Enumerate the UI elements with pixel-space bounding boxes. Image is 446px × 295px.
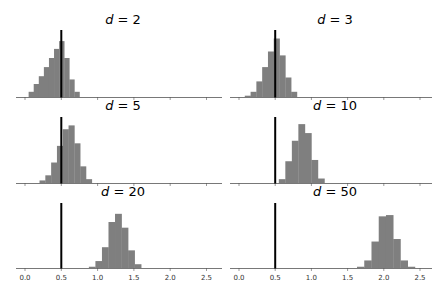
x-tick-label: 2.0: [165, 274, 176, 282]
histogram-bar: [102, 247, 109, 268]
x-tick-label: 2.5: [201, 274, 212, 282]
histogram-bar: [29, 92, 34, 97]
histogram-bar: [39, 76, 44, 97]
histogram-bar: [311, 160, 318, 183]
histogram-bar: [69, 125, 75, 183]
histogram-bar: [318, 179, 325, 183]
histogram-panel-d10: d = 10: [230, 98, 432, 186]
x-tick-label: 0.5: [270, 274, 281, 282]
histogram-bar: [280, 55, 286, 97]
histogram-bar: [371, 242, 379, 268]
histogram-bar: [63, 129, 69, 183]
histogram-bar: [408, 267, 416, 268]
histogram-bar: [386, 215, 394, 268]
histogram-bar: [115, 214, 122, 268]
histogram-bar: [298, 124, 305, 183]
x-tick-label: 1.0: [306, 274, 317, 282]
histogram-bar: [285, 161, 292, 183]
histogram-bar: [379, 216, 387, 268]
histogram-bars: [245, 39, 297, 98]
x-tick-label: 0.0: [233, 274, 244, 282]
histogram-bar: [108, 222, 115, 268]
histogram-bar: [51, 163, 57, 183]
histogram-bar: [64, 58, 69, 97]
panel-title: d = 20: [101, 184, 145, 199]
histogram-bar: [268, 52, 274, 98]
histogram-bar: [89, 267, 96, 268]
x-tick-label: 1.5: [342, 274, 353, 282]
histogram-bars: [357, 215, 415, 268]
panel-title: d = 5: [105, 98, 141, 113]
histogram-bars: [29, 41, 80, 97]
histogram-panel-d50: d = 500.00.51.01.52.02.5: [230, 184, 432, 282]
histogram-bars: [279, 124, 325, 183]
panel-title: d = 10: [313, 98, 357, 113]
histogram-panel-d5: d = 5: [16, 98, 222, 186]
histogram-bar: [45, 175, 51, 183]
histogram-bar: [364, 260, 372, 268]
x-tick-label: 1.0: [92, 274, 103, 282]
histogram-bars: [40, 125, 93, 183]
histogram-bar: [128, 250, 135, 268]
histogram-bar: [74, 143, 80, 183]
histogram-bar: [400, 260, 408, 268]
histogram-bar: [44, 67, 49, 97]
histogram-bar: [34, 84, 39, 97]
panel-title: d = 50: [313, 184, 357, 199]
histogram-bar: [285, 78, 291, 98]
panel-title: d = 2: [105, 12, 141, 27]
histogram-bar: [305, 133, 312, 183]
histogram-bar: [135, 264, 142, 268]
x-tick-label: 0.0: [19, 274, 30, 282]
histogram-bar: [262, 67, 268, 97]
histogram-bars: [89, 214, 142, 268]
histogram-bar: [122, 228, 129, 268]
histogram-bar: [251, 92, 257, 97]
panel-title: d = 3: [317, 12, 353, 27]
histogram-panel-d3: d = 3: [230, 12, 432, 100]
histogram-bar: [86, 179, 92, 183]
histogram-bar: [393, 239, 401, 268]
histogram-grid-figure: d = 2d = 3d = 5d = 10d = 200.00.51.01.52…: [0, 0, 446, 295]
x-tick-label: 2.0: [378, 274, 389, 282]
histogram-bar: [69, 79, 74, 97]
histogram-bar: [49, 58, 54, 97]
histogram-bar: [357, 267, 365, 268]
histogram-bar: [95, 261, 102, 268]
histogram-bar: [292, 141, 299, 183]
histogram-bar: [291, 92, 297, 97]
x-tick-label: 2.5: [414, 274, 425, 282]
histogram-bar: [256, 81, 262, 97]
x-tick-label: 0.5: [56, 274, 67, 282]
histogram-bar: [74, 92, 79, 97]
histogram-panel-d20: d = 200.00.51.01.52.02.5: [16, 184, 222, 282]
histogram-bar: [80, 166, 86, 183]
histogram-bar: [279, 179, 286, 183]
histogram-bar: [40, 180, 46, 183]
histogram-bar: [245, 96, 251, 97]
histogram-panel-d2: d = 2: [16, 12, 222, 100]
x-tick-label: 1.5: [128, 274, 139, 282]
histogram-bar: [54, 49, 59, 97]
